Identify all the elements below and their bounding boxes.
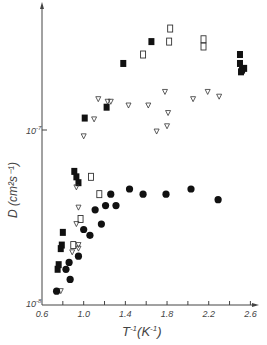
x-tick-label: 2.6 bbox=[243, 309, 257, 319]
x-tick-label: 1.0 bbox=[77, 309, 90, 319]
filled-square-marker bbox=[120, 60, 126, 67]
open-square-marker bbox=[168, 25, 173, 32]
open-triangle-marker bbox=[154, 129, 159, 134]
filled-square-marker bbox=[237, 51, 243, 58]
open-triangle-marker bbox=[205, 89, 210, 94]
open-triangle-marker bbox=[162, 89, 167, 94]
filled-circle-marker bbox=[86, 232, 93, 239]
x-axis-arrow-icon bbox=[252, 303, 259, 307]
filled-circle-marker bbox=[214, 196, 221, 203]
filled-circle-marker bbox=[53, 288, 60, 295]
x-tick-label: 2.2 bbox=[201, 309, 215, 319]
x-ticks bbox=[63, 301, 251, 305]
y-tick-label-1e-7: 10-7 bbox=[26, 125, 42, 136]
x-axis-label: T-1(K-1) bbox=[122, 324, 162, 339]
open-triangle-marker bbox=[92, 117, 97, 122]
filled-circle-marker bbox=[62, 266, 69, 273]
filled-circle-marker bbox=[75, 253, 82, 260]
open-square-marker bbox=[201, 36, 206, 43]
filled-circle-marker bbox=[65, 259, 72, 266]
plot-area: 0.61.01.41.82.22.6 10-7 10-8 D (cm²s⁻¹) … bbox=[0, 0, 267, 345]
open-square-marker bbox=[71, 242, 76, 249]
filled-square-marker bbox=[148, 38, 154, 45]
filled-square-marker bbox=[56, 261, 62, 268]
filled-circle-marker bbox=[102, 202, 109, 209]
filled-square-marker bbox=[59, 242, 65, 249]
filled-circle-marker bbox=[67, 276, 74, 283]
filled-circle-marker bbox=[126, 185, 133, 192]
diffusion-coefficient-chart: 0.61.01.41.82.22.6 10-7 10-8 D (cm²s⁻¹) … bbox=[0, 0, 267, 345]
open-triangle-marker bbox=[96, 97, 101, 102]
x-tick-label: 1.4 bbox=[119, 309, 132, 319]
filled-square-marker bbox=[82, 115, 88, 122]
filled-circle-marker bbox=[98, 220, 105, 227]
open-triangle-marker bbox=[126, 103, 131, 108]
filled-circle-marker bbox=[162, 191, 169, 198]
y-tick-label-1e-8: 10-8 bbox=[26, 298, 42, 309]
open-square-marker bbox=[97, 191, 102, 198]
open-triangle-marker bbox=[166, 111, 171, 116]
open-triangle-marker bbox=[146, 103, 151, 108]
open-triangle-marker bbox=[74, 222, 79, 227]
filled-circle-marker bbox=[139, 191, 146, 198]
open-square-marker bbox=[141, 51, 146, 58]
data-points bbox=[53, 25, 247, 295]
filled-circle-marker bbox=[107, 191, 114, 198]
open-triangle-marker bbox=[76, 205, 81, 210]
axes bbox=[40, 2, 259, 307]
open-square-marker bbox=[88, 173, 93, 180]
open-triangle-marker bbox=[191, 97, 196, 102]
filled-square-marker bbox=[238, 68, 244, 75]
filled-square-marker bbox=[60, 229, 66, 236]
filled-square-marker bbox=[104, 104, 110, 111]
x-tick-labels: 0.61.01.41.82.22.6 bbox=[36, 309, 257, 319]
open-triangle-marker bbox=[165, 124, 170, 129]
y-axis-label: D (cm²s⁻¹) bbox=[6, 162, 20, 218]
filled-circle-marker bbox=[92, 206, 99, 213]
y-axis-arrow-icon bbox=[40, 2, 44, 9]
filled-circle-marker bbox=[187, 185, 194, 192]
open-square-marker bbox=[201, 43, 206, 50]
filled-circle-marker bbox=[112, 202, 119, 209]
open-triangle-marker bbox=[81, 134, 86, 139]
open-triangle-marker bbox=[217, 94, 222, 99]
filled-circle-marker bbox=[80, 226, 87, 233]
x-tick-label: 1.8 bbox=[161, 309, 174, 319]
open-triangle-marker bbox=[70, 250, 75, 255]
x-tick-label: 0.6 bbox=[36, 309, 49, 319]
open-square-marker bbox=[167, 38, 172, 45]
